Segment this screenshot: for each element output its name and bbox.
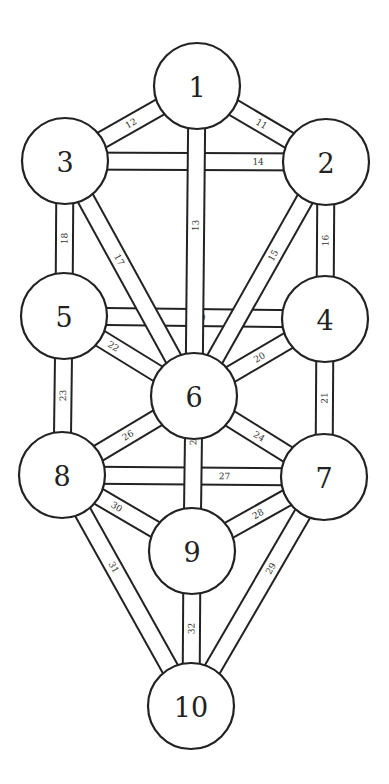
sphere-2: 2 — [283, 119, 369, 205]
sphere-8: 8 — [19, 432, 105, 518]
sphere-number: 4 — [316, 305, 333, 336]
path-label: 32 — [186, 623, 196, 635]
tree-of-life-diagram: 1419271112161821232022242628303129321715… — [0, 0, 389, 784]
sphere-9: 9 — [149, 508, 235, 594]
sphere-3: 3 — [22, 118, 108, 204]
path-label: 13 — [191, 219, 201, 231]
path-13: 13 — [186, 86, 206, 396]
sphere-number: 1 — [188, 72, 205, 103]
sphere-number: 2 — [317, 148, 334, 179]
sphere-number: 5 — [55, 302, 72, 333]
sphere-5: 5 — [21, 273, 107, 359]
path-label: 23 — [58, 389, 68, 401]
sphere-7: 7 — [281, 434, 367, 520]
sphere-1: 1 — [154, 43, 240, 129]
path-label: 18 — [59, 232, 69, 244]
sphere-4: 4 — [282, 276, 368, 362]
sphere-number: 3 — [56, 147, 73, 178]
sphere-6: 6 — [151, 353, 237, 439]
path-label: 27 — [219, 471, 231, 481]
path-label: 21 — [319, 392, 329, 404]
path-label: 14 — [252, 157, 264, 167]
sphere-number: 9 — [183, 537, 200, 568]
sphere-number: 6 — [185, 382, 202, 413]
sphere-number: 7 — [315, 463, 332, 494]
sphere-10: 10 — [148, 663, 234, 749]
sphere-number: 8 — [53, 461, 70, 492]
sphere-number: 10 — [174, 692, 208, 723]
path-label: 16 — [320, 234, 330, 246]
